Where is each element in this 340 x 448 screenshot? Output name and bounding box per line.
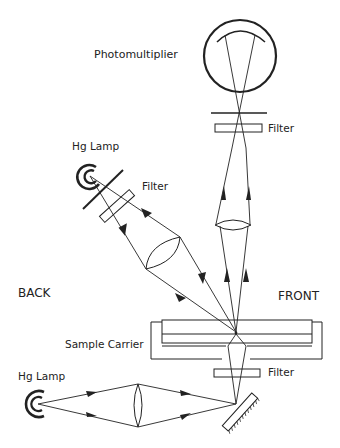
back-label: BACK [18,286,52,300]
filter-bottom-label: Filter [268,366,295,378]
filter-back-label: Filter [142,180,169,192]
photomultiplier-label: Photomultiplier [94,48,178,61]
emission-rays [220,226,249,332]
back-focused-rays [146,237,236,332]
lens-back [146,237,180,269]
hg-lamp-bottom-label: Hg Lamp [18,370,65,382]
filter-bottom [214,369,260,377]
hg-lamp-back-label: Hg Lamp [72,140,119,152]
hg-lamp-bottom [26,391,44,417]
bottom-rays-to-lens [38,384,138,427]
filter-top [215,124,262,132]
mirror [222,393,260,434]
front-label: FRONT [278,289,320,303]
photomultiplier [204,20,276,92]
front-upper-rays [216,148,251,224]
lens-bottom [134,384,142,427]
optical-diagram: Photomultiplier Filter Hg Lamp Filter [0,0,340,448]
bottom-rays-to-mirror [138,384,236,427]
sample-carrier-label: Sample Carrier [65,338,144,350]
filter-top-label: Filter [268,122,295,134]
